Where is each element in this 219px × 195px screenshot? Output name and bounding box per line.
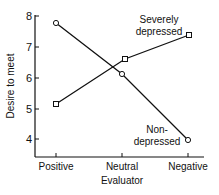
y-tick-6: 6 xyxy=(26,72,32,84)
line-chart: 8 7 6 5 4 Positive Neutral Negative Eval… xyxy=(0,0,219,195)
x-tick-positive: Positive xyxy=(38,161,73,172)
x-tick-negative: Negative xyxy=(168,161,208,172)
series-severely-depressed-markers xyxy=(54,33,192,107)
x-axis-label: Evaluator xyxy=(101,175,144,186)
series-severely-depressed-line xyxy=(56,35,189,104)
series-non-depressed-line xyxy=(56,23,188,140)
annotation-non-line1: Non- xyxy=(146,124,168,135)
x-tick-neutral: Neutral xyxy=(106,161,138,172)
series-non-depressed-markers xyxy=(53,20,190,142)
annotation-non-line2: depressed xyxy=(134,136,181,147)
y-tick-8: 8 xyxy=(26,10,32,22)
y-axis-label: Desire to meet xyxy=(5,53,16,118)
annotation-severely-line1: Severely xyxy=(140,14,179,25)
annotation-severely-line2: depressed xyxy=(136,26,183,37)
y-tick-4: 4 xyxy=(26,133,32,145)
y-tick-5: 5 xyxy=(26,103,32,115)
y-ticks: 8 7 6 5 4 xyxy=(26,10,39,145)
x-ticks: Positive Neutral Negative xyxy=(38,153,208,172)
y-tick-7: 7 xyxy=(26,41,32,53)
